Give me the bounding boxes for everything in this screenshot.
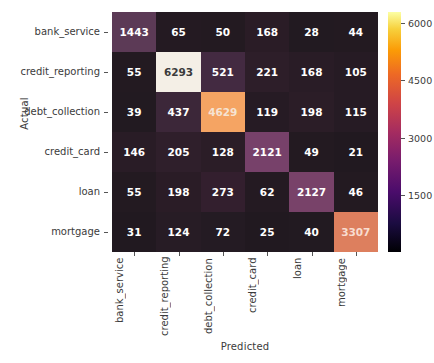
heatmap-cell: 221 bbox=[245, 52, 289, 92]
heatmap-cell: 55 bbox=[112, 52, 156, 92]
heatmap-cell: 1443 bbox=[112, 12, 156, 52]
heatmap-cell: 168 bbox=[245, 12, 289, 52]
x-tick-mark bbox=[356, 252, 357, 256]
heatmap-cell: 6293 bbox=[156, 52, 200, 92]
x-tick-mark bbox=[312, 252, 313, 256]
colorbar-tick-labels: 1500300045006000 bbox=[388, 12, 434, 252]
heatmap-cell: 44 bbox=[334, 12, 378, 52]
heatmap-cell: 72 bbox=[201, 212, 245, 252]
heatmap-grid: 1443655016828445562935212211681053943746… bbox=[112, 12, 378, 252]
heatmap-cell: 46 bbox=[334, 172, 378, 212]
heatmap-cell: 105 bbox=[334, 52, 378, 92]
heatmap-cell: 28 bbox=[289, 12, 333, 52]
heatmap-cell: 55 bbox=[112, 172, 156, 212]
x-tick-label: credit_reporting bbox=[159, 258, 199, 336]
colorbar-tick-mark bbox=[401, 138, 405, 139]
heatmap-cell: 198 bbox=[289, 92, 333, 132]
x-tick-mark bbox=[134, 252, 135, 256]
y-tick-label: mortgage bbox=[51, 212, 100, 252]
heatmap-cell: 3307 bbox=[334, 212, 378, 252]
y-tick-mark bbox=[104, 72, 108, 73]
x-tick-label: loan bbox=[292, 258, 332, 336]
heatmap-cell: 50 bbox=[201, 12, 245, 52]
y-tick-label: debt_collection bbox=[24, 92, 100, 132]
heatmap-cell: 128 bbox=[201, 132, 245, 172]
heatmap-cell: 198 bbox=[156, 172, 200, 212]
colorbar-tick-mark bbox=[401, 23, 405, 24]
heatmap-cell: 205 bbox=[156, 132, 200, 172]
heatmap-cell: 124 bbox=[156, 212, 200, 252]
x-tick-label: mortgage bbox=[336, 258, 376, 336]
y-tick-label: credit_reporting bbox=[20, 52, 100, 92]
x-axis-tick-labels: bank_servicecredit_reportingdebt_collect… bbox=[112, 252, 378, 340]
heatmap-cell: 49 bbox=[289, 132, 333, 172]
colorbar-tick-label: 6000 bbox=[408, 18, 432, 29]
y-tick-mark bbox=[104, 152, 108, 153]
x-axis-label: Predicted bbox=[112, 341, 378, 352]
y-tick-mark bbox=[104, 192, 108, 193]
y-tick-label: credit_card bbox=[45, 132, 101, 172]
heatmap-cell: 521 bbox=[201, 52, 245, 92]
heatmap-cell: 31 bbox=[112, 212, 156, 252]
heatmap-cell: 273 bbox=[201, 172, 245, 212]
heatmap-cell: 437 bbox=[156, 92, 200, 132]
colorbar-tick-label: 1500 bbox=[408, 189, 432, 200]
y-tick-mark bbox=[104, 232, 108, 233]
x-tick-mark bbox=[179, 252, 180, 256]
heatmap-cell: 2121 bbox=[245, 132, 289, 172]
heatmap-cell: 119 bbox=[245, 92, 289, 132]
heatmap-cell: 21 bbox=[334, 132, 378, 172]
colorbar-tick-label: 3000 bbox=[408, 132, 432, 143]
heatmap-cell: 4629 bbox=[201, 92, 245, 132]
x-tick-mark bbox=[223, 252, 224, 256]
heatmap-cell: 62 bbox=[245, 172, 289, 212]
heatmap-cell: 115 bbox=[334, 92, 378, 132]
heatmap-cell: 2127 bbox=[289, 172, 333, 212]
y-tick-label: loan bbox=[79, 172, 100, 212]
x-tick-label: credit_card bbox=[247, 258, 287, 336]
heatmap-cell: 40 bbox=[289, 212, 333, 252]
y-tick-label: bank_service bbox=[35, 12, 100, 52]
heatmap-cell: 168 bbox=[289, 52, 333, 92]
colorbar-tick-label: 4500 bbox=[408, 75, 432, 86]
heatmap-cell: 65 bbox=[156, 12, 200, 52]
x-tick-mark bbox=[267, 252, 268, 256]
colorbar-tick-mark bbox=[401, 80, 405, 81]
y-axis-tick-labels: bank_servicecredit_reportingdebt_collect… bbox=[0, 12, 108, 252]
heatmap-cell: 39 bbox=[112, 92, 156, 132]
y-tick-mark bbox=[104, 112, 108, 113]
heatmap-cell: 25 bbox=[245, 212, 289, 252]
x-tick-label: debt_collection bbox=[203, 258, 243, 336]
confusion-matrix-figure: Actual bank_servicecredit_reportingdebt_… bbox=[0, 0, 434, 363]
colorbar-tick-mark bbox=[401, 195, 405, 196]
x-tick-label: bank_service bbox=[114, 258, 154, 336]
heatmap-cell: 146 bbox=[112, 132, 156, 172]
y-tick-mark bbox=[104, 32, 108, 33]
